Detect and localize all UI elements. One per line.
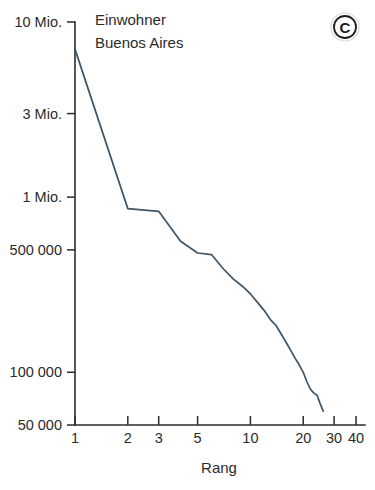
series-line-einwohner (75, 49, 323, 411)
y-tick-label: 10 Mio. (14, 14, 62, 30)
y-tick-label: 1 Mio. (23, 189, 63, 205)
badge-letter: C (340, 19, 351, 36)
y-tick-label: 100 000 (10, 364, 62, 380)
y-tick-label: 3 Mio. (23, 106, 63, 122)
x-tick-label: 3 (155, 430, 163, 446)
annotation-line-1: Einwohner (95, 11, 166, 28)
panel-badge: C (331, 13, 359, 41)
y-axis-tick-marks (67, 22, 75, 425)
x-tick-label: 1 (71, 430, 79, 446)
x-axis-tick-labels: 123510203040 (71, 430, 364, 446)
x-tick-label: 2 (124, 430, 132, 446)
x-tick-label: 30 (326, 430, 342, 446)
y-tick-label: 500 000 (10, 242, 62, 258)
y-axis-tick-labels: 10 Mio.3 Mio.1 Mio.500 000100 00050 000 (10, 14, 62, 433)
x-tick-label: 40 (348, 430, 364, 446)
x-tick-label: 20 (295, 430, 311, 446)
chart-axes (75, 22, 365, 425)
data-series-group (75, 49, 323, 411)
x-tick-label: 10 (242, 430, 258, 446)
series-annotation: Einwohner Buenos Aires (95, 11, 183, 51)
x-tick-label: 5 (194, 430, 202, 446)
zipf-rank-size-chart: 10 Mio.3 Mio.1 Mio.500 000100 00050 000 … (0, 0, 375, 490)
x-axis-tick-marks (75, 416, 356, 425)
x-axis-title: Rang (201, 459, 237, 476)
y-tick-label: 50 000 (18, 417, 62, 433)
annotation-line-2: Buenos Aires (95, 34, 183, 51)
